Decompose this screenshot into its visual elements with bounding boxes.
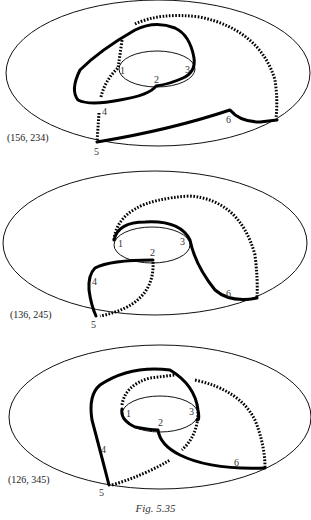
figure-caption: Fig. 5.35: [0, 502, 311, 514]
vertex-label-1: 1: [118, 238, 123, 249]
coordinate-label: (136, 245): [10, 309, 52, 321]
dotted-curve-5: [112, 460, 170, 485]
panel-3: 1 2 3 4 5 6 (126, 345): [8, 345, 311, 498]
dotted-curve-3-down: [182, 412, 198, 450]
dotted-curve-arc: [195, 380, 265, 468]
vertex-label-5: 5: [99, 487, 104, 498]
vertex-label-4: 4: [101, 444, 106, 455]
solid-curve-1-2-6: [122, 409, 265, 468]
panel-2: 1 2 3 4 5 6 (136, 245): [3, 171, 307, 330]
vertex-label-3: 3: [189, 406, 194, 417]
dotted-curve-arc: [135, 16, 277, 118]
figure-canvas: 1 2 3 4 5 6 (156, 234) 1 2 3 4 5 6 (136,…: [0, 0, 311, 520]
solid-curve-5-4-3: [91, 369, 199, 485]
coordinate-label: (126, 345): [8, 474, 50, 486]
solid-curve-2-4-5: [89, 260, 153, 316]
vertex-label-2: 2: [158, 417, 163, 428]
vertex-label-6: 6: [226, 114, 231, 125]
coordinate-label: (156, 234): [7, 132, 49, 144]
vertex-label-1: 1: [126, 408, 131, 419]
vertex-label-5: 5: [91, 319, 96, 330]
vertex-label-3: 3: [180, 236, 185, 247]
dotted-curve-4-5: [97, 113, 99, 142]
vertex-label-6: 6: [226, 288, 231, 299]
vertex-label-6: 6: [234, 457, 239, 468]
solid-curve-loop: [74, 24, 194, 103]
panel-1: 1 2 3 4 5 6 (156, 234): [6, 0, 310, 157]
vertex-label-4: 4: [92, 276, 97, 287]
torus-outer: [3, 171, 307, 315]
torus-outer: [6, 0, 310, 146]
dotted-curve-arc: [114, 196, 257, 298]
vertex-label-4: 4: [102, 106, 107, 117]
vertex-label-1: 1: [120, 65, 125, 76]
dotted-curve-2-5: [100, 262, 153, 316]
vertex-label-3: 3: [185, 64, 190, 75]
vertex-label-5: 5: [94, 146, 99, 157]
vertex-label-2: 2: [154, 74, 159, 85]
solid-curve-5-6: [97, 110, 277, 142]
vertex-label-2: 2: [150, 247, 155, 258]
dotted-curve-1-3: [122, 375, 175, 405]
